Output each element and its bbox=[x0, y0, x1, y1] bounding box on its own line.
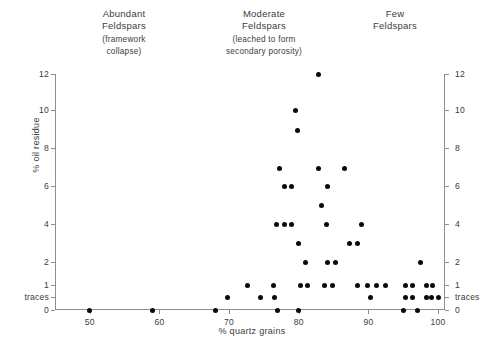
data-point bbox=[325, 260, 330, 265]
x-axis-tick-label: 100 bbox=[431, 317, 446, 327]
data-point bbox=[316, 166, 321, 171]
zone-label-line1: Few bbox=[325, 8, 465, 20]
y-axis-tick-label-left: 1 bbox=[44, 280, 49, 290]
data-point bbox=[374, 283, 379, 288]
y-axis-tick-label-left: 12 bbox=[39, 69, 49, 79]
zone-label-line2: Feldspars bbox=[325, 20, 465, 32]
data-point bbox=[355, 283, 360, 288]
x-axis-tick-label: 90 bbox=[363, 317, 373, 327]
y-axis-tick-label-right: 10 bbox=[455, 105, 465, 115]
zone-label-sub1: (leached to form bbox=[194, 34, 334, 45]
data-point bbox=[316, 72, 321, 77]
data-point bbox=[410, 283, 415, 288]
y-axis-tick-label-left: 0 bbox=[44, 305, 49, 315]
data-point bbox=[368, 295, 373, 300]
data-point bbox=[282, 222, 287, 227]
y-axis-tick-right bbox=[445, 297, 449, 298]
y-axis-tick-left bbox=[51, 285, 55, 286]
x-axis-tick-label: 70 bbox=[224, 317, 234, 327]
data-point bbox=[324, 222, 329, 227]
scatter-plot-figure: Abundant Feldspars (framework collapse) … bbox=[0, 0, 504, 346]
data-point bbox=[325, 184, 330, 189]
plot-area: 00tracestraces11224466881010121250607080… bbox=[55, 74, 445, 310]
data-point bbox=[150, 308, 155, 313]
data-point bbox=[87, 308, 92, 313]
data-point bbox=[403, 283, 408, 288]
data-point bbox=[359, 222, 364, 227]
y-axis-tick-right bbox=[445, 310, 449, 311]
zone-label-line1: Abundant bbox=[54, 8, 194, 20]
y-axis-tick-left bbox=[51, 148, 55, 149]
y-axis-tick-label-right: 0 bbox=[455, 305, 460, 315]
y-axis-tick-right bbox=[445, 186, 449, 187]
y-axis-tick-label-right: 6 bbox=[455, 181, 460, 191]
data-point bbox=[322, 283, 327, 288]
x-axis-tick bbox=[159, 310, 160, 314]
y-axis-tick-label-right: 1 bbox=[455, 280, 460, 290]
data-point bbox=[436, 295, 441, 300]
y-axis-tick-right bbox=[445, 110, 449, 111]
x-axis-line bbox=[55, 309, 445, 310]
data-point bbox=[319, 203, 324, 208]
y-axis-tick-right bbox=[445, 262, 449, 263]
data-point bbox=[424, 283, 429, 288]
zone-label-sub2: collapse) bbox=[54, 46, 194, 57]
data-point bbox=[330, 283, 335, 288]
x-axis-tick bbox=[368, 310, 369, 314]
zone-label-sub1: (framework bbox=[54, 34, 194, 45]
data-point bbox=[289, 184, 294, 189]
x-axis-title: % quartz grains bbox=[0, 326, 504, 336]
y-axis-tick-label-right: 2 bbox=[455, 257, 460, 267]
data-point bbox=[296, 308, 301, 313]
y-axis-tick-label-right: 8 bbox=[455, 143, 460, 153]
y-axis-line-left bbox=[55, 74, 56, 310]
y-axis-tick-label-left: 8 bbox=[44, 143, 49, 153]
data-point bbox=[347, 241, 352, 246]
y-axis-tick-left bbox=[51, 310, 55, 311]
data-point bbox=[305, 283, 310, 288]
data-point bbox=[342, 166, 347, 171]
x-axis-tick bbox=[229, 310, 230, 314]
y-axis-tick-left bbox=[51, 224, 55, 225]
y-axis-tick-label-left: 10 bbox=[39, 105, 49, 115]
data-point bbox=[429, 295, 434, 300]
y-axis-tick-left bbox=[51, 297, 55, 298]
x-axis-tick-label: 80 bbox=[294, 317, 304, 327]
data-point bbox=[355, 241, 360, 246]
y-axis-tick-left bbox=[51, 186, 55, 187]
data-point bbox=[289, 222, 294, 227]
zone-label-sub2: secondary porosity) bbox=[194, 46, 334, 57]
zone-label-moderate-feldspars: Moderate Feldspars (leached to form seco… bbox=[194, 8, 334, 57]
y-axis-tick-left bbox=[51, 262, 55, 263]
zone-label-line2: Feldspars bbox=[194, 20, 334, 32]
data-point bbox=[383, 283, 388, 288]
data-point bbox=[365, 283, 370, 288]
data-point bbox=[296, 241, 301, 246]
x-axis-tick bbox=[438, 310, 439, 314]
data-point bbox=[295, 128, 300, 133]
zone-label-few-feldspars: Few Feldspars bbox=[325, 8, 465, 32]
data-point bbox=[213, 308, 218, 313]
data-point bbox=[415, 308, 420, 313]
y-axis-tick-right bbox=[445, 74, 449, 75]
data-point bbox=[303, 260, 308, 265]
data-point bbox=[298, 283, 303, 288]
y-axis-tick-label-left: 4 bbox=[44, 219, 49, 229]
data-point bbox=[403, 295, 408, 300]
data-point bbox=[282, 184, 287, 189]
y-axis-tick-label-left: 6 bbox=[44, 181, 49, 191]
y-axis-title: % oil residue bbox=[31, 117, 41, 172]
data-point bbox=[418, 260, 423, 265]
data-point bbox=[258, 295, 263, 300]
data-point bbox=[430, 283, 435, 288]
y-axis-tick-label-left: 2 bbox=[44, 257, 49, 267]
y-axis-tick-right bbox=[445, 285, 449, 286]
y-axis-tick-right bbox=[445, 224, 449, 225]
y-axis-tick-label-right: 12 bbox=[455, 69, 465, 79]
data-point bbox=[401, 308, 406, 313]
data-point bbox=[277, 166, 282, 171]
data-point bbox=[275, 308, 280, 313]
y-axis-tick-label-right: 4 bbox=[455, 219, 460, 229]
data-point bbox=[272, 295, 277, 300]
data-point bbox=[293, 108, 298, 113]
